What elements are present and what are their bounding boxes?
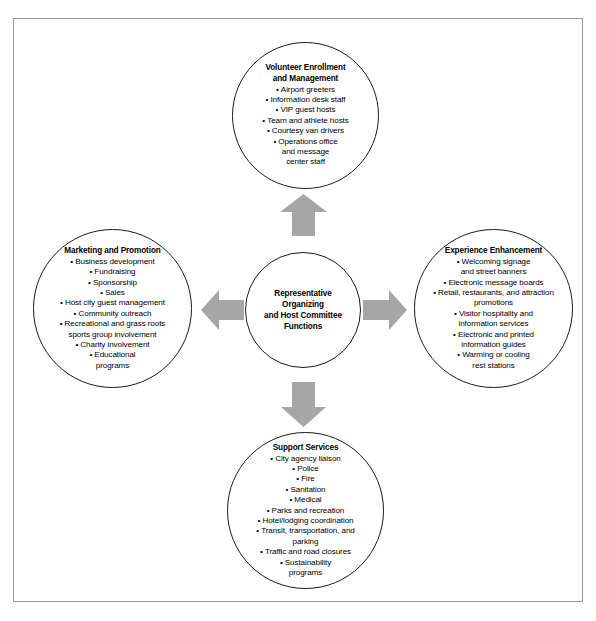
list-item: Visitor hospitality and information serv…: [433, 309, 554, 330]
list-item: Electronic message boards: [433, 278, 554, 288]
node-support-services[interactable]: Support Services City agency liaison Pol…: [227, 432, 384, 589]
list-item: Warming or cooling rest stations: [433, 350, 554, 371]
node-marketing-promotion-title: Marketing and Promotion: [64, 246, 160, 256]
diagram-page: Representative Organizing and Host Commi…: [0, 0, 596, 621]
node-volunteer-enrollment[interactable]: Volunteer Enrollment and Management Airp…: [232, 42, 379, 189]
list-item: Educational programs: [60, 350, 166, 371]
list-item: City agency liaison: [256, 454, 355, 464]
node-volunteer-enrollment-title: Volunteer Enrollment and Management: [265, 63, 345, 84]
node-experience-enhancement-list: Welcoming signage and street banners Ele…: [433, 257, 554, 371]
list-item: Airport greeters: [262, 85, 348, 95]
arrow-up-icon: [280, 194, 327, 236]
list-item: Sponsorship: [60, 278, 166, 288]
list-item: Sanitation: [256, 485, 355, 495]
arrow-down-icon: [281, 382, 326, 427]
list-item: Sustainability programs: [256, 558, 355, 579]
list-item: Parks and recreation: [256, 506, 355, 516]
list-item: Hotel/lodging coordination: [256, 516, 355, 526]
organizing-committee-diagram: Representative Organizing and Host Commi…: [0, 0, 596, 621]
list-item: Operations office and message center sta…: [262, 137, 348, 168]
list-item: VIP guest hosts: [262, 105, 348, 115]
list-item: Transit, transportation, and parking: [256, 526, 355, 547]
list-item: Fundraising: [60, 267, 166, 277]
node-experience-enhancement-title: Experience Enhancement: [445, 246, 542, 256]
node-volunteer-enrollment-list: Airport greeters Information desk staff …: [262, 85, 348, 168]
list-item: Traffic and road closures: [256, 547, 355, 557]
list-item: Electronic and printed information guide…: [433, 330, 554, 351]
list-item: Fire: [256, 474, 355, 484]
list-item: Sales: [60, 288, 166, 298]
list-item: Host city guest management: [60, 298, 166, 308]
list-item: Police: [256, 464, 355, 474]
list-item: Welcoming signage and street banners: [433, 257, 554, 278]
list-item: Business development: [60, 257, 166, 267]
node-marketing-promotion-list: Business development Fundraising Sponsor…: [60, 257, 166, 371]
list-item: Retail, restaurants, and attraction prom…: [433, 288, 554, 309]
arrow-right-icon: [363, 290, 407, 330]
list-item: Recreational and grass roots sports grou…: [60, 319, 166, 340]
node-marketing-promotion[interactable]: Marketing and Promotion Business develop…: [33, 229, 192, 388]
list-item: Team and athlete hosts: [262, 116, 348, 126]
list-item: Medical: [256, 495, 355, 505]
arrow-left-icon: [201, 290, 244, 330]
list-item: Charity involvement: [60, 340, 166, 350]
list-item: Community outreach: [60, 309, 166, 319]
list-item: Information desk staff: [262, 95, 348, 105]
node-support-services-list: City agency liaison Police Fire Sanitati…: [256, 454, 355, 579]
node-center-hub[interactable]: Representative Organizing and Host Commi…: [245, 252, 361, 368]
node-center-title: Representative Organizing and Host Commi…: [264, 288, 342, 332]
node-experience-enhancement[interactable]: Experience Enhancement Welcoming signage…: [414, 229, 573, 388]
node-support-services-title: Support Services: [273, 443, 339, 453]
list-item: Courtesy van drivers: [262, 126, 348, 136]
